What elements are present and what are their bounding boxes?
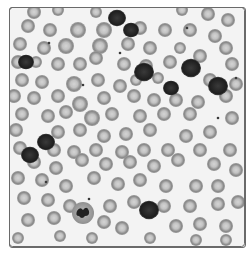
red-blood-cell: [157, 199, 171, 213]
platelet: [45, 181, 48, 184]
red-blood-cell: [157, 107, 171, 121]
red-blood-cell: [35, 75, 49, 89]
red-blood-cell: [147, 159, 161, 173]
red-blood-cell: [201, 7, 215, 21]
monocyte-nucleus: [208, 77, 228, 95]
lymphocyte-nucleus: [134, 63, 154, 81]
red-blood-cell: [115, 221, 129, 235]
red-blood-cell: [143, 41, 157, 55]
red-blood-cell: [103, 199, 117, 213]
red-blood-cell: [176, 4, 188, 16]
red-blood-cell: [87, 171, 101, 185]
red-blood-cell: [97, 215, 111, 229]
red-blood-cell: [70, 22, 86, 38]
red-blood-cell: [127, 89, 141, 103]
red-blood-cell: [72, 96, 88, 112]
red-blood-cell: [91, 73, 105, 87]
blood-smear-image: [0, 0, 251, 255]
red-blood-cell: [75, 153, 89, 167]
red-blood-cell: [66, 76, 82, 92]
red-blood-cell: [127, 195, 141, 209]
red-blood-cell: [211, 197, 225, 211]
red-blood-cell: [96, 22, 112, 38]
red-blood-cell: [15, 107, 29, 121]
red-blood-cell: [99, 157, 113, 171]
red-blood-cell: [59, 105, 73, 119]
red-blood-cell: [117, 57, 131, 71]
red-blood-cell: [193, 143, 207, 157]
lymphocyte-nucleus: [18, 55, 34, 70]
red-blood-cell: [219, 219, 233, 233]
platelet: [217, 117, 220, 120]
red-blood-cell: [225, 57, 239, 71]
red-blood-cell: [47, 211, 61, 225]
red-blood-cell: [119, 127, 133, 141]
lymphocyte-nucleus: [37, 134, 55, 151]
red-blood-cell: [171, 153, 185, 167]
red-blood-cell: [11, 171, 25, 185]
red-blood-cell: [183, 107, 197, 121]
platelet: [82, 84, 85, 87]
red-blood-cell: [179, 129, 193, 143]
red-blood-cell: [21, 213, 35, 227]
red-blood-cell: [52, 4, 64, 16]
red-blood-cell: [43, 23, 57, 37]
red-blood-cell: [143, 123, 157, 137]
red-blood-cell: [51, 125, 65, 139]
red-blood-cell: [59, 179, 73, 193]
red-blood-cell: [223, 143, 237, 157]
red-blood-cell: [89, 143, 103, 157]
red-blood-cell: [17, 191, 31, 205]
red-blood-cell: [73, 123, 87, 137]
red-blood-cell: [189, 179, 203, 193]
red-blood-cell: [58, 38, 74, 54]
red-blood-cell: [35, 173, 49, 187]
red-blood-cell: [219, 41, 233, 55]
red-blood-cell: [211, 179, 225, 193]
red-blood-cell: [84, 110, 100, 126]
red-blood-cell: [27, 91, 41, 105]
red-blood-cell: [113, 79, 127, 93]
red-blood-cell: [133, 109, 147, 123]
red-blood-cell: [161, 143, 175, 157]
red-blood-cell: [105, 107, 119, 121]
red-blood-cell: [229, 163, 243, 177]
lymphocyte-nucleus: [108, 10, 126, 27]
red-blood-cell: [231, 195, 245, 209]
red-blood-cell: [9, 123, 23, 137]
red-blood-cell: [174, 42, 186, 54]
red-blood-cell: [41, 193, 55, 207]
platelet: [48, 42, 51, 45]
red-blood-cell: [51, 89, 65, 103]
lymphocyte-nucleus: [21, 147, 39, 164]
red-blood-cell: [207, 157, 221, 171]
red-blood-cell: [41, 109, 55, 123]
red-blood-cell: [221, 13, 235, 27]
red-blood-cell: [183, 199, 197, 213]
red-blood-cell: [137, 143, 151, 157]
platelet: [88, 198, 91, 201]
red-blood-cell: [12, 232, 24, 244]
red-blood-cell: [193, 217, 207, 231]
red-blood-cell: [191, 95, 205, 109]
platelet: [186, 27, 189, 30]
red-blood-cell: [121, 37, 135, 51]
red-blood-cell: [73, 57, 87, 71]
platelet: [235, 77, 238, 80]
red-blood-cell: [203, 125, 217, 139]
red-blood-cell: [183, 23, 197, 37]
red-blood-cell: [21, 19, 35, 33]
red-blood-cell: [190, 234, 202, 246]
red-blood-cell: [54, 230, 66, 242]
red-blood-cell: [158, 23, 172, 37]
red-blood-cell: [13, 37, 27, 51]
red-blood-cell: [49, 161, 63, 175]
lymphocyte-nucleus: [181, 59, 201, 77]
red-blood-cell: [147, 93, 161, 107]
platelet: [119, 52, 122, 55]
red-blood-cell: [225, 111, 239, 125]
lymphocyte-nucleus: [123, 23, 139, 38]
red-blood-cell: [97, 91, 111, 105]
red-blood-cell: [159, 179, 173, 193]
red-blood-cell: [163, 55, 177, 69]
